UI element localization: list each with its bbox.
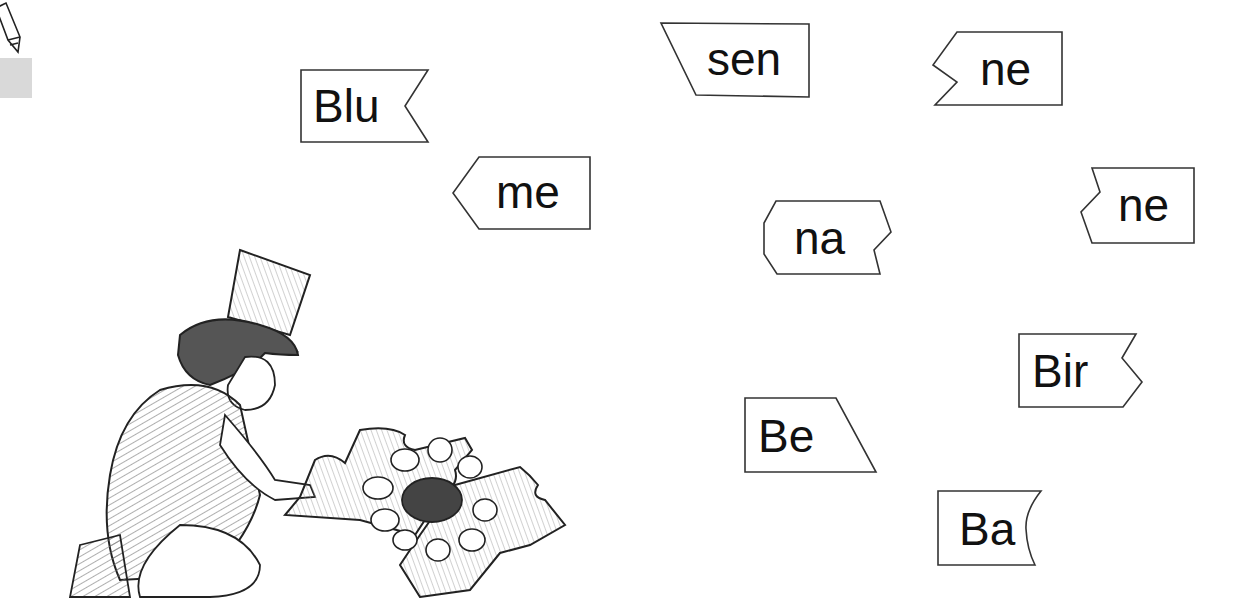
syllable-card-ne-2[interactable]: ne (1080, 166, 1196, 244)
syllable-text: Ba (959, 506, 1015, 552)
syllable-text: ne (1118, 182, 1169, 228)
syllable-card-na[interactable]: na (762, 199, 892, 275)
syllable-card-bir[interactable]: Bir (1018, 332, 1144, 410)
syllable-card-sen[interactable]: sen (660, 22, 812, 98)
section-marker (0, 58, 32, 98)
syllable-card-ne[interactable]: ne (930, 30, 1064, 108)
syllable-text: Bir (1032, 348, 1088, 394)
syllable-card-ba[interactable]: Ba (937, 489, 1045, 567)
syllable-text: ne (980, 46, 1031, 92)
child-puzzle-illustration (60, 235, 580, 598)
syllable-card-me[interactable]: me (452, 155, 592, 231)
syllable-text: sen (707, 36, 781, 82)
syllable-text: na (794, 215, 845, 261)
syllable-text: me (496, 169, 560, 215)
syllable-card-be[interactable]: Be (744, 396, 878, 474)
syllable-text: Be (758, 413, 814, 459)
syllable-card-blu[interactable]: Blu (300, 68, 430, 144)
pencil-icon (0, 0, 40, 64)
syllable-text: Blu (313, 83, 379, 129)
